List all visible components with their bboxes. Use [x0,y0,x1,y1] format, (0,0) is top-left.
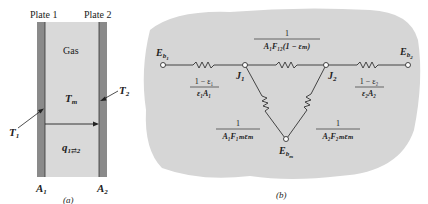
svg-text:1: 1 [285,29,289,38]
svg-text:1: 1 [336,119,340,128]
node-eb1 [161,63,166,68]
svg-text:A₁F₁₂(1 − εₘ): A₁F₁₂(1 − εₘ) [263,42,311,51]
node-eb2 [406,63,411,68]
figure-a-parallel-plates: Plate 1 Plate 2 Gas Tm T1 T2 q1⇄2 A1 A2 … [9,9,130,204]
t1-label: T1 [9,126,19,140]
svg-text:1: 1 [236,119,240,128]
svg-text:1 − ε₁: 1 − ε₁ [195,77,214,86]
radiation-network-figure: Plate 1 Plate 2 Gas Tm T1 T2 q1⇄2 A1 A2 … [0,0,428,204]
caption-b: (b) [276,190,287,200]
node-j2 [324,63,329,68]
svg-text:A₁F₁ₘεₘ: A₁F₁ₘεₘ [221,132,253,141]
svg-text:ε₁A₁: ε₁A₁ [197,89,211,98]
t2-label: T2 [119,84,130,98]
a2-label: A2 [96,182,108,196]
plate-1-label: Plate 1 [30,9,58,20]
gas-label: Gas [63,45,79,56]
plate-2-label: Plate 2 [84,9,112,20]
svg-text:ε₂A₂: ε₂A₂ [362,89,376,98]
a1-label: A1 [35,182,47,196]
caption-a: (a) [63,195,74,204]
figure-b-network: Eb1 Eb2 Ebm J1 J2 1 − ε₁ ε₁A₁ 1 A₁F₁₂(1 … [144,8,421,200]
svg-text:A₂F₂ₘεₘ: A₂F₂ₘεₘ [321,132,353,141]
node-j1 [243,63,248,68]
svg-text:1 − ε₂: 1 − ε₂ [360,77,379,86]
node-ebm [284,137,289,142]
plate-1 [37,22,45,177]
